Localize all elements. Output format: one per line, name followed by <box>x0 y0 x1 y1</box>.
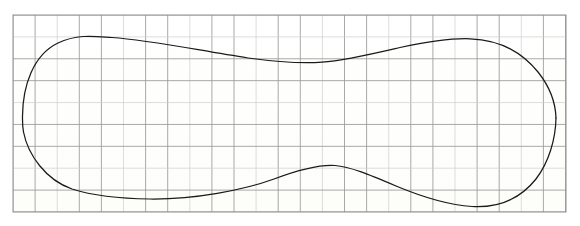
graph-paper-figure <box>0 0 580 226</box>
screenshot-root <box>0 0 580 226</box>
graph-paper-sheet <box>13 15 566 212</box>
